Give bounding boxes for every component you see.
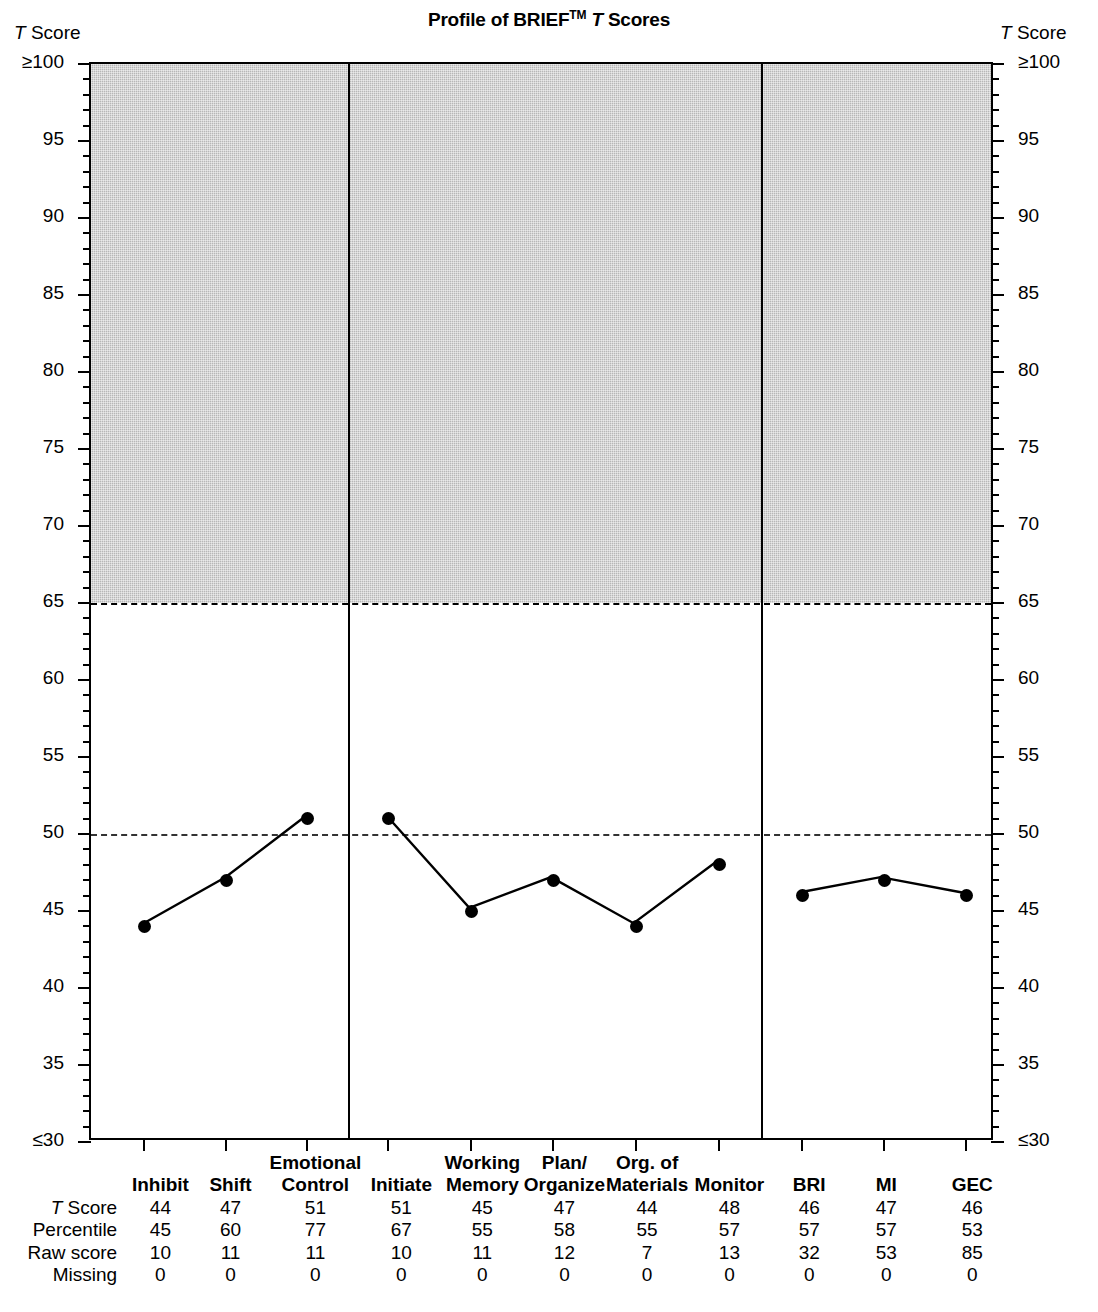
- y-tick-label-left-30: ≤30: [32, 1129, 64, 1151]
- col-header-line2: Inhibit: [129, 1174, 191, 1196]
- y-tick-left-63: [83, 633, 91, 635]
- y-tick-right-43: [991, 941, 999, 943]
- y-tick-right-82: [991, 340, 999, 342]
- y-tick-right-62: [991, 648, 999, 650]
- table-cell: 32: [770, 1242, 848, 1264]
- x-tick-3: [387, 1138, 389, 1151]
- y-tick-right-91: [991, 202, 999, 204]
- table-cell: 0: [689, 1264, 771, 1286]
- y-tick-left-64: [83, 617, 91, 619]
- y-tick-left-82: [83, 340, 91, 342]
- col-header-line1: Org. of: [606, 1152, 689, 1174]
- y-axis-caption-right-t: T: [1000, 22, 1012, 43]
- x-tick-9: [883, 1138, 885, 1151]
- data-point-working-memory: [465, 905, 478, 918]
- y-tick-left-92: [83, 186, 91, 188]
- y-tick-label-left-40: 40: [43, 975, 64, 997]
- y-tick-right-87: [991, 263, 999, 265]
- y-tick-label-right-35: 35: [1018, 1052, 1039, 1074]
- y-tick-left-48: [83, 864, 91, 866]
- col-header-line1: Plan/: [523, 1152, 605, 1174]
- y-tick-right-34: [991, 1079, 999, 1081]
- table-corner-cell: [0, 1152, 129, 1197]
- y-tick-left-69: [83, 540, 91, 542]
- y-tick-left-43: [83, 941, 91, 943]
- y-tick-right-67: [991, 571, 999, 573]
- y-tick-label-left-45: 45: [43, 898, 64, 920]
- y-tick-right-69: [991, 540, 999, 542]
- table-cell: 0: [523, 1264, 605, 1286]
- y-tick-left-97: [83, 109, 91, 111]
- table-cell: 11: [441, 1242, 523, 1264]
- profile-line-segment-0: [144, 816, 306, 923]
- table-row: Missing00000000000: [0, 1264, 1020, 1286]
- col-header-line2: Monitor: [689, 1174, 771, 1196]
- table-row-label: Raw score: [0, 1242, 129, 1264]
- y-tick-label-right-45: 45: [1018, 898, 1039, 920]
- y-tick-left-50: [78, 833, 91, 835]
- table-col-header-gec: GEC: [924, 1152, 1020, 1197]
- y-tick-left-98: [83, 94, 91, 96]
- y-tick-label-right-60: 60: [1018, 667, 1039, 689]
- y-tick-right-37: [991, 1033, 999, 1035]
- col-header-line2: Initiate: [361, 1174, 441, 1196]
- data-point-plan-organize: [547, 874, 560, 887]
- table-cell: 53: [924, 1219, 1020, 1241]
- y-tick-right-45: [991, 910, 1004, 912]
- y-tick-left-42: [83, 956, 91, 958]
- y-tick-right-41: [991, 972, 999, 974]
- y-tick-left-54: [83, 771, 91, 773]
- y-tick-left-55: [78, 756, 91, 758]
- y-tick-right-44: [991, 925, 999, 927]
- y-tick-right-61: [991, 664, 999, 666]
- y-tick-left-68: [83, 556, 91, 558]
- data-point-org-of-materials: [630, 920, 643, 933]
- table-cell: 44: [606, 1197, 689, 1219]
- y-tick-right-47: [991, 879, 999, 881]
- y-tick-right-53: [991, 787, 999, 789]
- y-tick-left-33: [83, 1095, 91, 1097]
- y-tick-left-47: [83, 879, 91, 881]
- y-tick-label-right-95: 95: [1018, 128, 1039, 150]
- table-cell: 67: [361, 1219, 441, 1241]
- y-tick-left-51: [83, 818, 91, 820]
- table-cell: 0: [606, 1264, 689, 1286]
- y-tick-label-right-100: ≥100: [1018, 51, 1060, 73]
- table-row: Raw score101111101112713325385: [0, 1242, 1020, 1264]
- table-row: T Score4447515145474448464746: [0, 1197, 1020, 1219]
- y-tick-left-73: [83, 479, 91, 481]
- y-tick-left-66: [83, 587, 91, 589]
- y-tick-right-51: [991, 818, 999, 820]
- profile-line-segment-1: [387, 816, 717, 923]
- y-tick-right-92: [991, 186, 999, 188]
- y-tick-right-90: [991, 217, 1004, 219]
- y-tick-left-49: [83, 848, 91, 850]
- table-cell: 53: [848, 1242, 924, 1264]
- y-tick-left-78: [83, 402, 91, 404]
- y-tick-left-45: [78, 910, 91, 912]
- table-cell: 46: [924, 1197, 1020, 1219]
- y-tick-label-right-90: 90: [1018, 205, 1039, 227]
- y-tick-right-100: [991, 63, 1004, 65]
- y-axis-caption-left-rest: Score: [26, 22, 81, 43]
- y-axis-caption-right-rest: Score: [1012, 22, 1067, 43]
- y-tick-right-50: [991, 833, 1004, 835]
- y-tick-left-86: [83, 279, 91, 281]
- y-tick-label-left-90: 90: [43, 205, 64, 227]
- x-tick-6: [635, 1138, 637, 1151]
- y-tick-left-91: [83, 202, 91, 204]
- y-axis-caption-left: T Score: [14, 22, 81, 44]
- y-tick-left-39: [83, 1002, 91, 1004]
- y-tick-left-32: [83, 1110, 91, 1112]
- table-cell: 55: [606, 1219, 689, 1241]
- y-tick-right-84: [991, 309, 999, 311]
- y-tick-right-89: [991, 232, 999, 234]
- table-cell: 60: [192, 1219, 270, 1241]
- table-col-header-emotional-control: EmotionalControl: [269, 1152, 361, 1197]
- y-tick-left-35: [78, 1064, 91, 1066]
- y-tick-left-61: [83, 664, 91, 666]
- y-tick-label-right-70: 70: [1018, 513, 1039, 535]
- table-cell: 47: [192, 1197, 270, 1219]
- y-tick-right-99: [991, 78, 999, 80]
- y-tick-left-80: [78, 371, 91, 373]
